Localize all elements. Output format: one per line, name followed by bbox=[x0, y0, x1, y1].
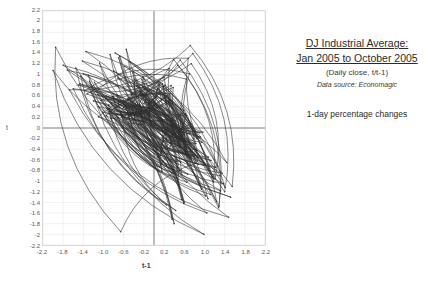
y-axis-tick-label: 0.8 bbox=[14, 82, 40, 89]
data-point bbox=[121, 116, 122, 117]
data-point bbox=[168, 135, 169, 136]
data-point bbox=[142, 76, 143, 77]
data-point bbox=[143, 98, 144, 99]
data-point bbox=[136, 86, 137, 87]
data-point bbox=[146, 88, 147, 89]
data-point bbox=[165, 145, 166, 146]
data-point bbox=[224, 191, 225, 192]
data-point bbox=[186, 114, 187, 115]
data-point bbox=[113, 70, 114, 71]
data-point bbox=[193, 138, 194, 139]
y-axis-tick-label: 1.8 bbox=[14, 28, 40, 35]
data-point bbox=[149, 109, 150, 110]
data-point bbox=[131, 122, 132, 123]
data-point bbox=[192, 126, 193, 127]
data-point bbox=[176, 178, 177, 179]
data-point bbox=[175, 161, 176, 162]
data-point bbox=[135, 92, 136, 93]
data-point bbox=[167, 148, 168, 149]
data-point bbox=[111, 112, 112, 113]
data-point bbox=[164, 84, 165, 85]
y-axis-tick-label: -0.8 bbox=[14, 167, 40, 174]
data-point bbox=[126, 49, 127, 50]
series-line bbox=[53, 46, 234, 235]
data-point bbox=[171, 219, 172, 220]
data-point bbox=[173, 223, 174, 224]
data-point bbox=[174, 146, 175, 147]
data-point bbox=[221, 172, 222, 173]
data-point bbox=[171, 172, 172, 173]
y-axis-tick-label: 1.2 bbox=[14, 60, 40, 67]
data-point bbox=[97, 94, 98, 95]
data-point bbox=[122, 112, 123, 113]
data-point bbox=[190, 45, 191, 46]
data-point bbox=[187, 154, 188, 155]
data-point bbox=[200, 136, 201, 137]
data-point bbox=[185, 153, 186, 154]
data-point bbox=[133, 122, 134, 123]
data-point bbox=[191, 63, 192, 64]
data-point bbox=[117, 77, 118, 78]
data-point bbox=[138, 104, 139, 105]
data-point bbox=[119, 55, 120, 56]
y-axis-tick-label: 1.6 bbox=[14, 39, 40, 46]
data-point bbox=[154, 151, 155, 152]
data-point bbox=[105, 98, 106, 99]
data-point bbox=[208, 157, 209, 158]
data-point bbox=[90, 92, 91, 93]
data-point bbox=[123, 107, 124, 108]
data-point bbox=[124, 66, 125, 67]
data-point bbox=[147, 107, 148, 108]
y-axis-tick-label: 1.4 bbox=[14, 49, 40, 56]
data-point bbox=[178, 147, 179, 148]
data-point bbox=[107, 108, 108, 109]
data-point bbox=[129, 119, 130, 120]
data-point bbox=[158, 170, 159, 171]
data-point bbox=[145, 99, 146, 100]
x-axis-tick-label: 2.2 bbox=[254, 248, 278, 256]
y-axis-tick-label: 0.4 bbox=[14, 103, 40, 110]
data-point bbox=[125, 108, 126, 109]
data-point bbox=[136, 80, 137, 81]
data-point bbox=[202, 132, 203, 133]
data-point bbox=[191, 159, 192, 160]
data-point bbox=[139, 90, 140, 91]
data-point bbox=[116, 94, 117, 95]
data-point bbox=[163, 141, 164, 142]
data-point bbox=[134, 78, 135, 79]
x-axis-title: t-1 bbox=[142, 262, 151, 269]
data-point bbox=[171, 120, 172, 121]
caption-block: DJ Industrial Average: Jan 2005 to Octob… bbox=[276, 36, 438, 119]
data-point bbox=[162, 83, 163, 84]
data-point bbox=[218, 205, 219, 206]
data-series bbox=[52, 45, 233, 235]
data-point bbox=[220, 190, 221, 191]
data-point bbox=[170, 142, 171, 143]
data-point bbox=[119, 113, 120, 114]
data-point bbox=[230, 196, 231, 197]
data-point bbox=[108, 104, 109, 105]
y-axis-tick-label: 1 bbox=[14, 71, 40, 78]
data-point bbox=[188, 165, 189, 166]
data-point bbox=[164, 94, 165, 95]
data-point bbox=[137, 89, 138, 90]
data-point bbox=[166, 204, 167, 205]
data-point bbox=[82, 60, 83, 61]
data-point bbox=[207, 198, 208, 199]
data-point bbox=[177, 145, 178, 146]
data-point bbox=[175, 125, 176, 126]
data-point bbox=[174, 120, 175, 121]
data-point bbox=[128, 121, 129, 122]
data-point bbox=[193, 143, 194, 144]
data-point bbox=[189, 73, 190, 74]
data-point bbox=[112, 96, 113, 97]
data-point bbox=[86, 93, 87, 94]
data-point bbox=[214, 178, 215, 179]
y-axis-tick-labels: 2.221.81.61.41.210.80.60.40.20-0.2-0.4-0… bbox=[10, 10, 40, 246]
data-point bbox=[116, 107, 117, 108]
data-point bbox=[194, 158, 195, 159]
data-point bbox=[124, 117, 125, 118]
data-point bbox=[105, 95, 106, 96]
data-point bbox=[189, 133, 190, 134]
data-point bbox=[68, 89, 69, 90]
